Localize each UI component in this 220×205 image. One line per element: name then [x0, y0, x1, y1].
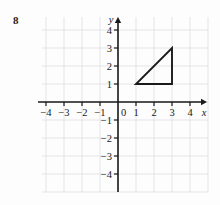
y-axis-tick-label: −4	[101, 169, 113, 180]
x-axis-tick-label: 4	[187, 107, 193, 118]
x-axis-tick-label: −3	[58, 107, 69, 118]
y-axis-tick-label: 4	[107, 25, 113, 36]
y-axis-tick-label: −1	[101, 115, 112, 126]
x-axis-tick-label: −2	[76, 107, 87, 118]
y-axis-arrowhead	[115, 17, 121, 23]
y-axis-name-label: y	[108, 14, 114, 25]
y-axis-tick-label: −2	[101, 133, 112, 144]
y-axis-tick-label: −3	[101, 151, 112, 162]
axes	[38, 17, 207, 192]
y-axis-tick-label: 1	[107, 79, 112, 90]
grid-lines	[42, 17, 208, 192]
x-axis-tick-label: 2	[151, 107, 156, 118]
origin-label: 0	[121, 107, 126, 118]
x-axis-arrowhead	[201, 99, 207, 105]
y-axis-tick-label: 3	[107, 43, 112, 54]
y-axis-tick-label: 2	[107, 61, 112, 72]
coordinate-plane-graph: −4−3−2−112344321−1−2−3−40 xy	[0, 0, 220, 205]
x-axis-tick-label: 3	[169, 107, 174, 118]
x-axis-tick-label: −4	[40, 107, 52, 118]
x-axis-tick-label: 1	[133, 107, 138, 118]
x-axis-name-label: x	[201, 107, 207, 118]
worksheet-page: 8 −4−3−2−112344321−1−2−3−40 xy	[0, 0, 220, 205]
